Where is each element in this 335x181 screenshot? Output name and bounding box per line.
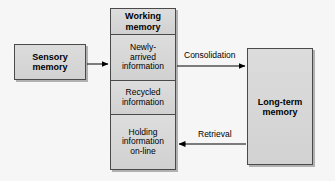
working-memory-header-line2: memory bbox=[125, 22, 160, 32]
retrieval-arrow-label: Retrieval bbox=[198, 129, 232, 139]
holding-information-text: Holding information on-line bbox=[120, 128, 166, 157]
recycled-information-cell: Recycled information bbox=[111, 81, 175, 115]
holding-line3: on-line bbox=[130, 146, 156, 156]
newly-arrived-line2: arrived bbox=[130, 52, 156, 62]
holding-information-on-line-cell: Holding information on-line bbox=[111, 115, 175, 169]
long-term-memory-line1: Long-term bbox=[258, 96, 303, 106]
newly-arrived-information-cell: Newly- arrived information bbox=[111, 35, 175, 81]
consolidation-arrow-label: Consolidation bbox=[184, 50, 236, 60]
recycled-line1: Recycled bbox=[126, 87, 161, 97]
newly-arrived-line3: information bbox=[122, 61, 164, 71]
long-term-memory-label: Long-term memory bbox=[248, 96, 312, 116]
long-term-memory-box: Long-term memory bbox=[247, 48, 313, 165]
newly-arrived-line1: Newly- bbox=[130, 42, 156, 52]
newly-arrived-information-text: Newly- arrived information bbox=[120, 43, 166, 72]
recycled-line2: information bbox=[122, 97, 164, 107]
memory-flow-diagram: Sensory memory Working memory Newly- arr… bbox=[0, 0, 335, 181]
sensory-memory-label: Sensory memory bbox=[15, 52, 85, 72]
working-memory-stack: Working memory Newly- arrived informatio… bbox=[110, 8, 176, 170]
working-memory-header-text: Working memory bbox=[123, 11, 163, 31]
recycled-information-text: Recycled information bbox=[120, 88, 166, 107]
working-memory-header-cell: Working memory bbox=[111, 9, 175, 35]
sensory-memory-box: Sensory memory bbox=[14, 44, 86, 80]
holding-line1: Holding bbox=[129, 127, 158, 137]
holding-line2: information bbox=[122, 136, 164, 146]
working-memory-header-line1: Working bbox=[125, 11, 161, 21]
sensory-memory-line2: memory bbox=[32, 62, 67, 72]
long-term-memory-line2: memory bbox=[262, 107, 297, 117]
sensory-memory-line1: Sensory bbox=[32, 52, 68, 62]
